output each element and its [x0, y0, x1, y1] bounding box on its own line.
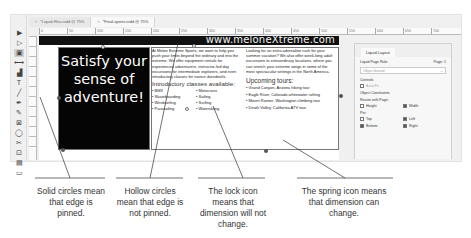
panel-tab-liquid-layout[interactable]: Liquid Layout: [361, 48, 395, 57]
free-transform-tool-icon[interactable]: ⊡: [14, 149, 24, 157]
pin-solid-circle-right[interactable]: [339, 94, 343, 98]
pin-label: Pin:: [360, 111, 446, 115]
tab-final-sports[interactable]: × *Final-sports.indd @ 75%: [91, 17, 155, 27]
left-checkbox[interactable]: Left: [403, 117, 446, 121]
text-frame-outline: [151, 47, 339, 150]
ruler-tick: 700: [431, 28, 459, 34]
ruler-tick: 50: [67, 28, 95, 34]
pin-hollow-circle-top[interactable]: [101, 45, 105, 49]
top-checkbox[interactable]: Top: [360, 117, 403, 121]
object-constraints-label: Object Constraints: [360, 91, 446, 95]
height-checkbox[interactable]: Height: [360, 104, 403, 108]
right-checkbox[interactable]: Right: [403, 124, 446, 128]
tools-panel: ▶▷▣⟷▟T╱✒✎⊠◯✂⊡▤▭: [11, 15, 27, 161]
note-tool-icon[interactable]: ▭: [14, 169, 24, 177]
ruler-tick: 650: [403, 28, 431, 34]
close-tab-icon[interactable]: ×: [35, 17, 37, 27]
hero-text-frame[interactable]: Satisfy your sense of adventure!: [59, 48, 149, 149]
controls-label: Controls: [360, 78, 446, 82]
width-checkbox[interactable]: Width: [403, 104, 446, 108]
checkbox-icon: [360, 84, 364, 88]
content-collector-tool-icon[interactable]: ▟: [14, 69, 24, 77]
liquid-page-rule-select[interactable]: Object-based ⌄: [360, 67, 446, 74]
checkbox-icon: [360, 104, 364, 108]
gradient-tool-icon[interactable]: ▤: [14, 159, 24, 167]
chevron-down-icon: ⌄: [440, 68, 443, 73]
lock-icon[interactable]: [185, 107, 189, 111]
checkbox-checked-icon: [403, 124, 407, 128]
selection-tool-icon[interactable]: ▶: [14, 29, 24, 37]
type-tool-icon[interactable]: T: [14, 79, 24, 87]
spring-icon[interactable]: [264, 149, 268, 153]
ruler-tick: 0: [39, 28, 67, 34]
direct-selection-tool-icon[interactable]: ▷: [14, 39, 24, 47]
rectangle-frame-tool-icon[interactable]: ⊠: [14, 119, 24, 127]
checkbox-checked-icon: [360, 124, 364, 128]
checkbox-icon: [360, 117, 364, 121]
checkbox-checked-icon: [403, 117, 407, 121]
checkbox-checked-icon: [403, 104, 407, 108]
pin-solid-circle-bottom[interactable]: [61, 148, 65, 152]
document-page[interactable]: www.meloneXtreme.com Satisfy your sense …: [39, 36, 339, 160]
pin-solid-circle-left[interactable]: [57, 96, 61, 100]
ruler-tick: 100: [95, 28, 123, 34]
pencil-tool-icon[interactable]: ✎: [14, 109, 24, 117]
banner-bar: www.meloneXtreme.com: [39, 36, 339, 45]
indesign-window: ▶▷▣⟷▟T╱✒✎⊠◯✂⊡▤▭ × *Liquid-Flex.indd @ 75…: [10, 14, 462, 162]
page-tool-icon[interactable]: ▣: [14, 49, 24, 57]
pen-tool-icon[interactable]: ✒: [14, 99, 24, 107]
ruler-tick: 200: [151, 28, 179, 34]
tab-liquid-flex[interactable]: × *Liquid-Flex.indd @ 75%: [29, 17, 91, 27]
callout-hollow-circles: Hollow circles mean that edge is not pin…: [114, 186, 186, 219]
resize-with-page-label: Resize with Page:: [360, 98, 446, 102]
callout-lock-icon: The lock icon means that dimension will …: [195, 186, 271, 230]
close-tab-icon[interactable]: ×: [97, 17, 99, 27]
ruler-tick: 550: [347, 28, 375, 34]
bottom-checkbox[interactable]: Bottom: [360, 124, 403, 128]
callout-solid-circles: Solid circles mean that edge is pinned.: [35, 186, 107, 219]
scissors-tool-icon[interactable]: ✂: [14, 139, 24, 147]
liquid-layout-panel: Liquid Layout Liquid Page Rule: Page: 1 …: [354, 43, 452, 159]
panel-body: Liquid Page Rule: Page: 1 Object-based ⌄…: [355, 57, 451, 159]
callout-spring-icon: The spring icon means that dimension can…: [296, 186, 392, 219]
document-tabs: × *Liquid-Flex.indd @ 75% × *Final-sport…: [29, 17, 155, 27]
ellipse-tool-icon[interactable]: ◯: [14, 129, 24, 137]
line-tool-icon[interactable]: ╱: [14, 89, 24, 97]
vertical-ruler[interactable]: [29, 36, 37, 160]
hero-headline: Satisfy your sense of adventure!: [61, 52, 147, 106]
page-number-label: Page: 1: [434, 60, 446, 64]
ruler-tick: 150: [123, 28, 151, 34]
pin-hollow-circle-top-2[interactable]: [192, 44, 196, 48]
banner-url: www.meloneXtreme.com: [206, 34, 335, 45]
ruler-tick: 250: [179, 28, 207, 34]
auto-fit-checkbox[interactable]: Auto-Fit: [360, 84, 404, 88]
gap-tool-icon[interactable]: ⟷: [14, 59, 24, 67]
liquid-page-rule-label: Liquid Page Rule:: [360, 60, 388, 64]
ruler-tick: 600: [375, 28, 403, 34]
